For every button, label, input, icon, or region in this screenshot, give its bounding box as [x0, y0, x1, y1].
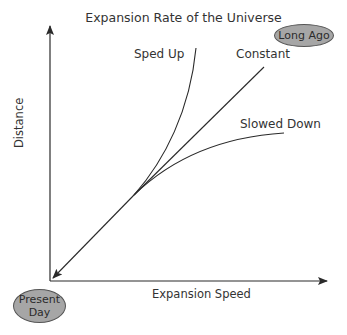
present-day-badge: Present Day — [13, 289, 66, 323]
slowed-down-label: Slowed Down — [240, 117, 321, 131]
present-day-text-line1: Present — [19, 293, 60, 306]
present-day-text-line2: Day — [29, 306, 51, 319]
constant-label: Constant — [236, 47, 290, 61]
long-ago-text: Long Ago — [278, 29, 329, 42]
constant-line — [134, 67, 264, 195]
y-axis-label: Distance — [12, 98, 26, 148]
sped-up-curve — [134, 48, 196, 195]
long-ago-badge: Long Ago — [274, 24, 334, 47]
origin-arrow — [53, 195, 134, 278]
slowed-down-curve — [134, 133, 284, 195]
x-axis-label: Expansion Speed — [152, 287, 251, 301]
sped-up-label: Sped Up — [134, 47, 184, 61]
